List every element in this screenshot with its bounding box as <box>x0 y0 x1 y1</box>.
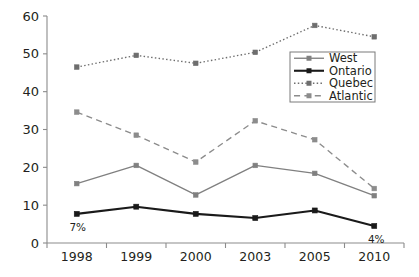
x-tick-label: 2000 <box>180 249 212 264</box>
data-point-ontario-2000 <box>193 211 198 216</box>
y-tick-label: 50 <box>22 46 39 61</box>
y-tick-label: 20 <box>22 160 39 175</box>
legend-swatch-marker-ontario <box>307 68 312 73</box>
data-point-west-1998 <box>74 181 79 186</box>
data-point-atlantic-1999 <box>134 133 139 138</box>
x-axis: 199819992000200320052010 <box>47 243 404 264</box>
data-point-atlantic-2003 <box>253 118 258 123</box>
data-point-west-2000 <box>193 193 198 198</box>
y-tick-label: 30 <box>22 122 39 137</box>
data-point-west-1999 <box>134 163 139 168</box>
legend-swatch-marker-west <box>307 56 312 61</box>
annotation-label: 7% <box>69 221 86 233</box>
data-point-west-2010 <box>372 193 377 198</box>
x-tick-label: 1999 <box>120 249 152 264</box>
data-point-quebec-1998 <box>74 65 79 70</box>
data-point-quebec-2005 <box>312 23 317 28</box>
data-point-west-2003 <box>253 163 258 168</box>
data-point-ontario-2010 <box>372 223 377 228</box>
data-point-quebec-1999 <box>134 53 139 58</box>
y-tick-label: 10 <box>22 198 39 213</box>
data-point-ontario-1999 <box>134 204 139 209</box>
chart-legend: WestOntarioQuebecAtlantic <box>290 51 375 103</box>
data-point-ontario-2005 <box>312 208 317 213</box>
data-point-quebec-2003 <box>253 50 258 55</box>
y-tick-label: 0 <box>31 236 39 251</box>
legend-label-atlantic: Atlantic <box>329 89 373 103</box>
legend-swatch-marker-quebec <box>307 81 312 86</box>
series-line-atlantic <box>77 112 375 188</box>
data-point-quebec-2010 <box>372 35 377 40</box>
chart-canvas: 0102030405060 199819992000200320052010 7… <box>0 0 419 277</box>
data-point-west-2005 <box>312 171 317 176</box>
data-point-ontario-2003 <box>253 216 258 221</box>
series-line-west <box>77 165 375 195</box>
data-point-quebec-2000 <box>193 61 198 66</box>
data-point-ontario-1998 <box>74 211 79 216</box>
series-line-ontario <box>77 207 375 226</box>
annotation-label: 4% <box>368 233 385 245</box>
x-tick-label: 1998 <box>61 249 93 264</box>
legend-swatch-marker-atlantic <box>307 93 312 98</box>
line-chart: 0102030405060 199819992000200320052010 7… <box>0 0 419 277</box>
y-tick-label: 60 <box>22 9 39 24</box>
data-point-atlantic-2010 <box>372 186 377 191</box>
x-tick-label: 2003 <box>239 249 271 264</box>
data-point-atlantic-2000 <box>193 160 198 165</box>
data-point-atlantic-1998 <box>74 110 79 115</box>
annotation-layer: 7%4% <box>69 221 384 245</box>
y-tick-label: 40 <box>22 84 39 99</box>
data-point-atlantic-2005 <box>312 137 317 142</box>
x-tick-label: 2010 <box>358 249 390 264</box>
x-tick-label: 2005 <box>299 249 331 264</box>
y-axis: 0102030405060 <box>22 9 47 251</box>
